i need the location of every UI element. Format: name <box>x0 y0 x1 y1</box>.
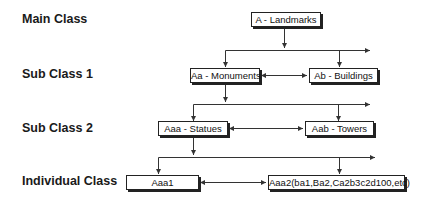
node-aaa1: Aaa1 <box>126 175 199 190</box>
level-label-sub-class-2: Sub Class 2 <box>22 121 93 135</box>
node-towers: Aab - Towers <box>305 121 374 136</box>
node-buildings: Ab - Buildings <box>309 68 378 83</box>
node-landmarks: A - Landmarks <box>251 12 321 27</box>
node-statues: Aaa - Statues <box>158 121 228 136</box>
node-monuments: Aa - Monuments <box>190 68 260 83</box>
connector-lines <box>0 0 424 203</box>
level-label-sub-class-1: Sub Class 1 <box>22 67 93 81</box>
level-label-individual-class: Individual Class <box>22 174 117 188</box>
level-label-main-class: Main Class <box>22 12 87 26</box>
node-aaa2: Aaa2(ba1,Ba2,Ca2b3c2d100,etc) <box>268 175 405 190</box>
